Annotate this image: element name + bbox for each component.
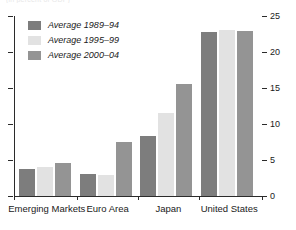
bar	[219, 30, 235, 196]
bar-group	[201, 16, 257, 196]
bar	[176, 84, 192, 196]
legend-label-series-3: Average 2000–04	[48, 50, 119, 60]
x-category-label: Euro Area	[86, 203, 128, 214]
axis-end-tick	[14, 196, 15, 200]
x-category-label: Emerging Markets	[8, 203, 85, 214]
bar	[55, 163, 71, 196]
y-tick-label: 20	[270, 47, 280, 57]
bar	[80, 174, 96, 196]
group-separator-tick	[199, 196, 200, 200]
y-tick-label: 25	[270, 11, 280, 21]
bar	[201, 32, 217, 196]
bar-chart: (in percent of GDP) 0510152025 Emerging …	[0, 0, 296, 230]
y-tick-left	[8, 16, 13, 17]
legend-item: Average 1989–94	[28, 19, 119, 31]
y-tick-right	[262, 52, 267, 53]
y-tick-right	[262, 160, 267, 161]
x-category-label: Japan	[155, 203, 181, 214]
legend-label-series-2: Average 1995–99	[48, 35, 119, 45]
group-separator-tick	[77, 196, 78, 200]
bar	[37, 167, 53, 196]
y-tick-left	[8, 196, 13, 197]
y-tick-left	[8, 52, 13, 53]
legend-swatch-series-2	[28, 36, 41, 45]
group-separator-tick	[138, 196, 139, 200]
axis-end-tick	[262, 196, 263, 200]
legend-label-series-1: Average 1989–94	[48, 20, 119, 30]
y-tick-right	[262, 88, 267, 89]
bar	[116, 142, 132, 196]
bar-group	[140, 16, 196, 196]
y-tick-left	[8, 88, 13, 89]
y-tick-label: 0	[270, 191, 275, 201]
legend-item: Average 2000–04	[28, 49, 119, 61]
legend: Average 1989–94 Average 1995–99 Average …	[28, 19, 119, 64]
y-tick-right	[262, 124, 267, 125]
bar	[19, 169, 35, 196]
legend-swatch-series-1	[28, 21, 41, 30]
bar	[140, 136, 156, 196]
y-tick-left	[8, 160, 13, 161]
x-category-label: United States	[201, 203, 258, 214]
legend-item: Average 1995–99	[28, 34, 119, 46]
y-tick-left	[8, 124, 13, 125]
bar	[98, 175, 114, 196]
clipped-title: (in percent of GDP)	[6, 0, 70, 3]
legend-swatch-series-3	[28, 51, 41, 60]
y-tick-label: 15	[270, 83, 280, 93]
y-axis-line	[14, 16, 15, 197]
bar	[237, 31, 253, 196]
y-tick-label: 10	[270, 119, 280, 129]
y-tick-label: 5	[270, 155, 275, 165]
bar	[158, 113, 174, 196]
y-tick-right	[262, 16, 267, 17]
